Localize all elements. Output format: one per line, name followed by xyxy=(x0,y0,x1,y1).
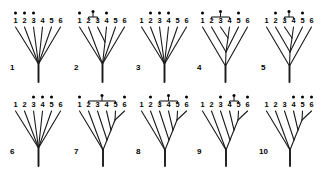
dot-marker xyxy=(50,96,53,99)
dot-marker xyxy=(149,12,152,15)
tree-panel-9: 1234569 xyxy=(193,86,258,169)
dot-marker xyxy=(101,94,104,97)
tip-label-1: 1 xyxy=(200,16,204,25)
dot-marker xyxy=(14,12,17,15)
tip-label-1: 1 xyxy=(77,100,81,109)
panel-number-2: 2 xyxy=(74,64,78,72)
tree-diagram-4: 123456 xyxy=(193,2,258,86)
panel-number-1: 1 xyxy=(10,64,14,72)
clade-bracket xyxy=(89,94,116,104)
tip-label-5: 5 xyxy=(49,16,53,25)
tip-branch-5 xyxy=(238,111,239,120)
internal-branch-1 xyxy=(111,120,115,130)
tip-branch-4 xyxy=(228,27,230,38)
tree-panel-7: 1234567 xyxy=(70,86,135,169)
tip-branch-1 xyxy=(203,27,226,66)
dot-marker xyxy=(92,10,95,13)
tree-diagram-5: 123456 xyxy=(257,2,322,86)
tree-diagram-6: 123456 xyxy=(6,86,71,169)
tip-label-6: 6 xyxy=(245,100,249,109)
panel-number-8: 8 xyxy=(136,148,140,156)
tip-branch-6 xyxy=(238,111,248,120)
tip-label-3: 3 xyxy=(31,16,35,25)
dot-marker xyxy=(219,96,222,99)
dot-marker xyxy=(123,96,126,99)
dot-marker xyxy=(219,10,222,13)
dot-marker xyxy=(158,12,161,15)
tip-branch-3 xyxy=(221,27,229,38)
tip-label-6: 6 xyxy=(184,100,188,109)
tip-branch-3 xyxy=(98,27,106,42)
dot-marker xyxy=(32,12,35,15)
tree-diagram-7: 123456 xyxy=(70,86,135,169)
tip-label-6: 6 xyxy=(58,16,62,25)
tip-label-2: 2 xyxy=(148,16,152,25)
dot-marker xyxy=(78,96,81,99)
tip-label-1: 1 xyxy=(139,16,143,25)
internal-branch-3 xyxy=(103,140,107,150)
dot-marker xyxy=(301,12,304,15)
dot-marker xyxy=(23,12,26,15)
tip-branch-2 xyxy=(276,27,291,52)
dot-marker xyxy=(78,12,81,15)
internal-branch-2 xyxy=(294,130,298,140)
tip-label-4: 4 xyxy=(40,100,45,109)
internal-branch-1 xyxy=(234,120,238,130)
tip-label-2: 2 xyxy=(273,100,277,109)
tip-label-5: 5 xyxy=(300,16,304,25)
dot-marker xyxy=(167,94,170,97)
panel-number-5: 5 xyxy=(261,64,265,72)
tip-label-2: 2 xyxy=(22,100,26,109)
tree-panel-5: 1234565 xyxy=(257,2,322,86)
panel-number-3: 3 xyxy=(136,64,140,72)
internal-branch-1 xyxy=(173,120,177,130)
tree-panel-8: 1234568 xyxy=(132,86,197,169)
tip-branch-4 xyxy=(107,111,112,130)
panel-number-10: 10 xyxy=(259,148,268,156)
tip-label-6: 6 xyxy=(58,100,62,109)
tip-label-1: 1 xyxy=(139,100,143,109)
tip-branch-3 xyxy=(285,27,293,38)
tree-diagram-2: 123456 xyxy=(70,2,135,86)
tip-label-1: 1 xyxy=(200,100,204,109)
tip-label-6: 6 xyxy=(184,16,188,25)
tip-label-4: 4 xyxy=(166,16,171,25)
tip-label-6: 6 xyxy=(309,16,313,25)
tree-panel-6: 1234566 xyxy=(6,86,71,169)
tip-label-2: 2 xyxy=(209,100,213,109)
tip-label-1: 1 xyxy=(77,16,81,25)
internal-branch-1 xyxy=(298,120,302,130)
tip-label-6: 6 xyxy=(122,100,126,109)
internal-branch-2 xyxy=(230,130,234,140)
tip-label-1: 1 xyxy=(13,100,17,109)
tip-label-6: 6 xyxy=(309,100,313,109)
tip-branch-4 xyxy=(294,111,299,130)
tip-label-1: 1 xyxy=(264,16,268,25)
tip-label-4: 4 xyxy=(40,16,45,25)
tip-branch-5 xyxy=(115,111,116,120)
tip-label-5: 5 xyxy=(113,16,117,25)
tip-label-5: 5 xyxy=(236,16,240,25)
tree-diagram-9: 123456 xyxy=(193,86,258,169)
tip-branch-6 xyxy=(115,111,125,120)
tip-label-2: 2 xyxy=(22,16,26,25)
tip-label-3: 3 xyxy=(282,100,286,109)
tip-branch-3 xyxy=(221,111,231,140)
dot-marker xyxy=(41,96,44,99)
tree-diagram-1: 123456 xyxy=(6,2,71,86)
tree-panel-3: 1234563 xyxy=(132,2,197,86)
tree-panel-10: 12345610 xyxy=(257,86,322,169)
tip-label-5: 5 xyxy=(300,100,304,109)
internal-branch-2 xyxy=(169,130,173,140)
dot-marker xyxy=(149,96,152,99)
tip-label-2: 2 xyxy=(273,16,277,25)
internal-branch-2 xyxy=(107,130,111,140)
internal-branch-b xyxy=(226,52,227,66)
internal-branch-3 xyxy=(165,140,169,150)
tip-label-3: 3 xyxy=(31,100,35,109)
tip-branch-5 xyxy=(177,111,178,120)
tree-panel-1: 1234561 xyxy=(6,2,71,86)
tree-diagram-10: 123456 xyxy=(257,86,322,169)
dot-marker xyxy=(233,94,236,97)
dot-marker xyxy=(237,12,240,15)
